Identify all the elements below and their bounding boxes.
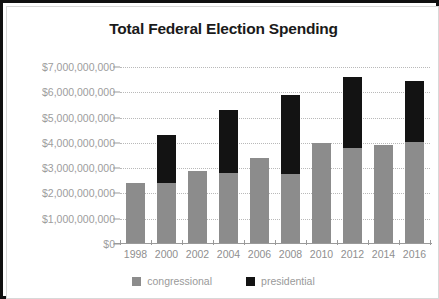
bar-group[interactable] (275, 67, 306, 244)
bar-segment-congressional[interactable] (312, 143, 331, 244)
bar-segment-congressional[interactable] (281, 174, 300, 244)
bar-group[interactable] (337, 67, 368, 244)
legend-item[interactable]: congressional (132, 275, 212, 287)
bar-segment-congressional[interactable] (374, 145, 393, 244)
y-axis-tick-label: $2,000,000,000 (11, 187, 115, 199)
chart-legend: congressionalpresidential (7, 275, 439, 287)
bar-group[interactable] (244, 67, 275, 244)
y-axis-tick-label: $0 (11, 238, 115, 250)
bar-segment-congressional[interactable] (250, 158, 269, 244)
y-axis-tick (113, 142, 120, 143)
bar-group[interactable] (306, 67, 337, 244)
bar-segment-presidential[interactable] (405, 81, 424, 142)
y-axis-tick-label: $4,000,000,000 (11, 137, 115, 149)
bar-segment-presidential[interactable] (343, 77, 362, 148)
legend-label: congressional (147, 275, 212, 287)
legend-swatch-icon (246, 277, 255, 286)
x-axis-labels: 1998200020022004200620082010201220142016 (120, 7, 439, 27)
y-axis-tick (113, 67, 120, 68)
y-axis-tick (113, 193, 120, 194)
legend-label: presidential (261, 275, 315, 287)
y-axis-tick-label: $7,000,000,000 (11, 61, 115, 73)
bar-segment-congressional[interactable] (188, 171, 207, 244)
y-axis-tick (113, 92, 120, 93)
x-axis-tick-label: 2016 (395, 248, 435, 260)
legend-swatch-icon (132, 277, 141, 286)
y-axis-tick-label: $3,000,000,000 (11, 162, 115, 174)
bar-segment-congressional[interactable] (219, 173, 238, 244)
bar-group[interactable] (120, 67, 151, 244)
y-axis-tick-label: $1,000,000,000 (11, 213, 115, 225)
bar-segment-congressional[interactable] (126, 183, 145, 244)
bar-segment-presidential[interactable] (157, 135, 176, 183)
y-axis-labels: $0$1,000,000,000$2,000,000,000$3,000,000… (9, 67, 115, 244)
y-axis-tick (113, 117, 120, 118)
bar-segment-congressional[interactable] (157, 183, 176, 244)
y-axis-tick (113, 218, 120, 219)
legend-item[interactable]: presidential (246, 275, 315, 287)
bar-group[interactable] (151, 67, 182, 244)
x-axis-line (114, 243, 432, 244)
y-axis-tick (113, 168, 120, 169)
bar-segment-congressional[interactable] (343, 148, 362, 244)
bar-group[interactable] (182, 67, 213, 244)
bar-group[interactable] (213, 67, 244, 244)
plot-area (120, 67, 430, 244)
chart-inner-panel: Total Federal Election Spending $0$1,000… (6, 6, 439, 299)
chart-frame: Total Federal Election Spending $0$1,000… (0, 0, 439, 299)
bar-segment-congressional[interactable] (405, 142, 424, 244)
bar-group[interactable] (368, 67, 399, 244)
bar-segment-presidential[interactable] (219, 110, 238, 173)
y-axis-tick-label: $6,000,000,000 (11, 86, 115, 98)
bar-segment-presidential[interactable] (281, 95, 300, 175)
bar-group[interactable] (399, 67, 430, 244)
y-axis-tick-label: $5,000,000,000 (11, 112, 115, 124)
